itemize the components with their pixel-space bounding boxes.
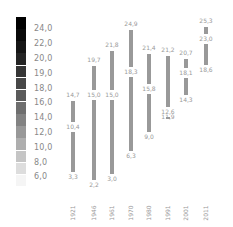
legend-swatch (16, 138, 26, 150)
value-label-top: 20,7 (174, 50, 198, 56)
x-axis-label: 1970 (128, 203, 134, 223)
legend-swatch (16, 175, 26, 187)
value-label-bottom: 6,3 (119, 153, 143, 159)
bar-upper-1970 (129, 30, 133, 67)
legend-swatch (16, 126, 26, 138)
bar-upper-1921 (71, 101, 75, 122)
color-scale-legend (16, 17, 26, 187)
legend-tick-label: 18,0 (34, 85, 53, 93)
bar-lower-1970 (129, 77, 133, 151)
value-label-top: 19,7 (82, 57, 106, 63)
value-label-bottom: 14,3 (174, 97, 198, 103)
legend-swatch (16, 78, 26, 90)
legend-swatch (16, 90, 26, 102)
value-label-middle: 18,3 (119, 69, 143, 75)
value-label-bottom: 2,2 (82, 182, 106, 188)
legend-tick-label: 20,0 (34, 55, 53, 63)
bar-lower-1946 (92, 100, 96, 180)
bar-upper-1980 (147, 54, 151, 84)
legend-swatch (16, 151, 26, 163)
legend-swatch (16, 17, 26, 29)
bar-lower-1980 (147, 94, 151, 132)
legend-tick-label: 22,0 (34, 40, 53, 48)
bar-lower-1961 (110, 100, 114, 174)
bar-upper-1991 (166, 56, 170, 107)
x-axis-label: 2001 (183, 203, 189, 223)
bar-lower-2011 (204, 44, 208, 65)
value-label-middle: 15,0 (100, 92, 124, 98)
value-label-bottom: 3,3 (61, 174, 85, 180)
bar-lower-1921 (71, 132, 75, 172)
value-label-bottom: 3,0 (100, 176, 124, 182)
value-label-middle: 10,4 (61, 124, 85, 130)
legend-swatch (16, 66, 26, 78)
x-axis-label: 1991 (165, 203, 171, 223)
legend-swatch (16, 53, 26, 65)
bar-lower-2001 (184, 78, 188, 95)
bar-upper-2011 (204, 27, 208, 34)
legend-swatch (16, 163, 26, 175)
x-axis-label: 1961 (109, 203, 115, 223)
value-label-bottom: 11,9 (156, 114, 180, 120)
legend-tick-label: 14,0 (34, 114, 53, 122)
value-label-middle: 23,0 (194, 36, 218, 42)
legend-tick-label: 10,0 (34, 144, 53, 152)
bar-upper-2001 (184, 59, 188, 68)
legend-tick-label: 6,0 (34, 173, 47, 181)
legend-swatch (16, 29, 26, 41)
x-axis-label: 1921 (70, 203, 76, 223)
legend-tick-label: 16,0 (34, 99, 53, 107)
legend-swatch (16, 114, 26, 126)
value-label-middle: 15,8 (137, 86, 161, 92)
value-label-bottom: 18,6 (194, 67, 218, 73)
value-label-top: 24,9 (119, 21, 143, 27)
bar-upper-1946 (92, 66, 96, 90)
legend-swatch (16, 102, 26, 114)
bar-upper-1961 (110, 51, 114, 90)
value-label-bottom: 9,0 (137, 134, 161, 140)
x-axis-label: 1980 (146, 203, 152, 223)
x-axis-label: 2011 (203, 203, 209, 223)
legend-swatch (16, 41, 26, 53)
value-label-top: 25,3 (194, 18, 218, 24)
legend-tick-label: 12,0 (34, 129, 53, 137)
value-label-top: 21,8 (100, 42, 124, 48)
legend-tick-label: 19,0 (34, 70, 53, 78)
x-axis-label: 1946 (91, 203, 97, 223)
legend-tick-label: 8,0 (34, 159, 47, 167)
legend-tick-label: 24,0 (34, 25, 53, 33)
